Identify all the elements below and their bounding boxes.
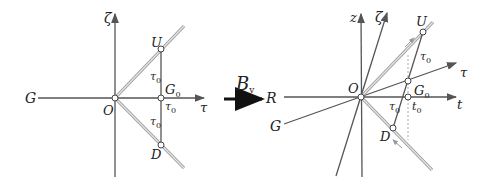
label-d: D [379, 129, 391, 144]
label-tau0-lower: τ0 [389, 100, 400, 115]
label-o: O [348, 81, 359, 96]
label-u: U [151, 35, 163, 50]
label-r: R [265, 90, 277, 106]
transform-arrow: Bv [224, 73, 262, 99]
point-t0 [405, 94, 411, 100]
label-zeta: ζ [104, 10, 113, 26]
label-u: U [416, 14, 428, 29]
label-g: G [25, 90, 36, 106]
label-tau0-upper: τ0 [150, 70, 161, 85]
point-d [390, 125, 396, 131]
label-g0: G0 [165, 82, 180, 99]
point-o [112, 95, 118, 101]
left-diagram: G O ζ τ U D G0 τ0 τ0 τ0 [25, 10, 208, 177]
right-diagram: R G O z ζ U τ t D G0 τ0 τ0 t0 [265, 9, 468, 177]
point-u [420, 29, 426, 35]
label-tau0-lower: τ0 [150, 115, 161, 130]
label-tau: τ [460, 65, 468, 80]
tau-tilted-axis [284, 63, 456, 124]
label-tau0-right: τ0 [165, 100, 176, 115]
label-z: z [349, 10, 357, 25]
relativity-diagram: G O ζ τ U D G0 τ0 τ0 τ0 Bv R [0, 0, 481, 187]
label-t: t [457, 97, 463, 112]
label-d: D [150, 147, 162, 162]
label-tau0-upper: τ0 [420, 50, 431, 65]
point-g0 [405, 78, 411, 84]
point-g0 [158, 95, 164, 101]
label-zeta: ζ [375, 9, 384, 25]
point-o [358, 94, 364, 100]
label-t0: t0 [412, 100, 422, 115]
label-g0: G0 [414, 83, 429, 100]
label-tau: τ [200, 100, 208, 115]
label-bv: Bv [235, 73, 255, 95]
label-o: O [103, 103, 114, 118]
motion-arrow-lower [393, 140, 402, 148]
label-g: G [270, 118, 281, 134]
